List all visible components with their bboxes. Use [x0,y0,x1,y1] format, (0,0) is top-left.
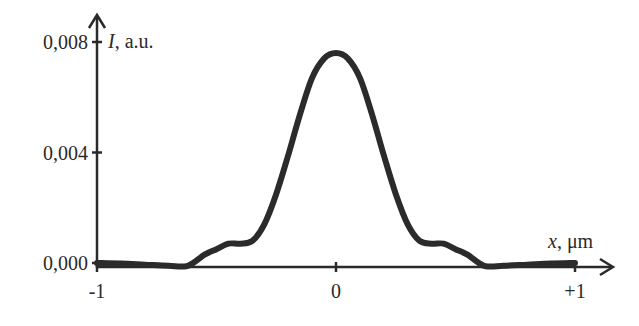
intensity-curve [97,53,575,267]
x-tick-label: +1 [564,280,585,302]
intensity-profile-chart: 0,0000,0040,008 -10+1 I, a.u. x, μm [0,0,639,326]
y-ticks: 0,0000,0040,008 [43,31,102,274]
x-tick-label: -1 [89,280,106,302]
y-axis-label: I, a.u. [107,30,154,52]
x-axis-label: x, μm [547,230,594,253]
y-tick-label: 0,004 [43,142,88,164]
y-tick-label: 0,008 [43,31,88,53]
x-tick-label: 0 [331,280,341,302]
y-tick-label: 0,000 [43,252,88,274]
